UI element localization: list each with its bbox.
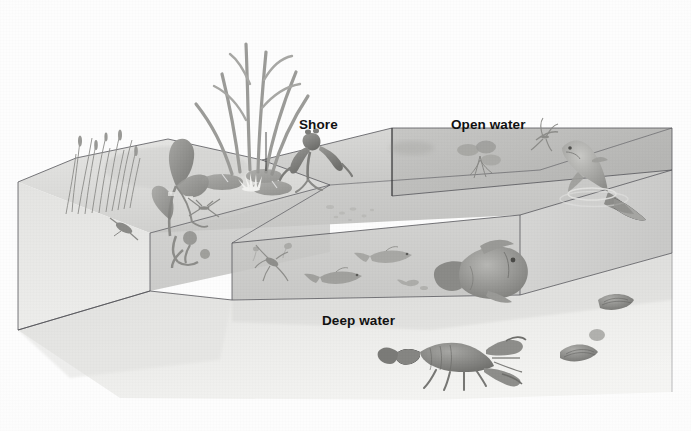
reed-blades — [214, 54, 300, 120]
label-deep-water: Deep water — [322, 313, 395, 328]
label-shore: Shore — [299, 117, 338, 132]
label-open-water: Open water — [451, 117, 526, 132]
algae-patch — [390, 141, 434, 155]
pond-block-diagram — [0, 0, 691, 431]
figure-canvas: Shore Open water Deep water — [0, 0, 691, 431]
